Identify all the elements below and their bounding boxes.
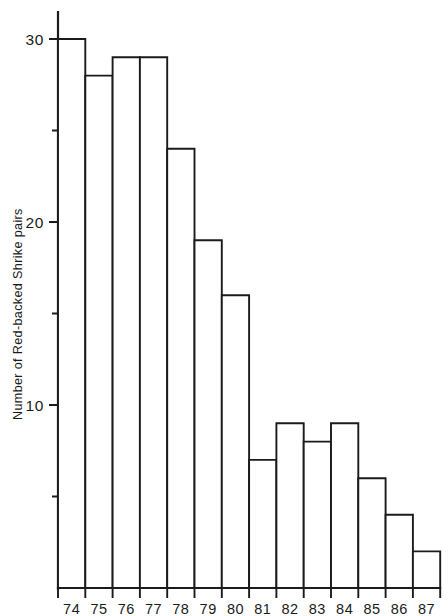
bar <box>58 39 85 588</box>
bar <box>304 442 331 588</box>
bar <box>195 240 222 588</box>
x-tick-label: 81 <box>254 601 271 616</box>
x-axis-tick-labels: 7475767778798081828384858687 <box>63 601 435 616</box>
x-tick-label: 80 <box>227 601 244 616</box>
x-tick-label: 77 <box>145 601 162 616</box>
x-tick-label: 83 <box>309 601 326 616</box>
x-tick-label: 79 <box>200 601 217 616</box>
bar <box>331 423 358 588</box>
chart-figure: 102030 7475767778798081828384858687 Numb… <box>0 0 448 616</box>
bar <box>222 295 249 588</box>
bar <box>276 423 303 588</box>
x-axis-ticks <box>58 588 440 598</box>
x-tick-label: 85 <box>363 601 380 616</box>
bar-series <box>58 39 440 588</box>
y-tick-label: 30 <box>26 31 44 48</box>
x-tick-label: 86 <box>391 601 408 616</box>
x-tick-label: 78 <box>172 601 189 616</box>
x-tick-label: 74 <box>63 601 80 616</box>
bar <box>85 76 112 588</box>
bar <box>113 57 140 588</box>
bar <box>249 460 276 588</box>
x-tick-label: 76 <box>118 601 135 616</box>
y-axis-tick-labels: 102030 <box>26 31 44 414</box>
y-axis-title: Number of Red-backed Shrike pairs <box>11 208 25 420</box>
x-tick-label: 87 <box>418 601 435 616</box>
bar-chart: 102030 7475767778798081828384858687 Numb… <box>0 0 448 616</box>
bar <box>386 515 413 588</box>
x-tick-label: 84 <box>336 601 353 616</box>
y-tick-label: 10 <box>26 397 44 414</box>
bar <box>358 478 385 588</box>
y-tick-label: 20 <box>26 214 44 231</box>
x-tick-label: 82 <box>281 601 298 616</box>
bar <box>167 149 194 588</box>
x-tick-label: 75 <box>90 601 107 616</box>
bar <box>413 551 440 588</box>
bar <box>140 57 167 588</box>
y-axis-major-ticks <box>49 39 58 405</box>
